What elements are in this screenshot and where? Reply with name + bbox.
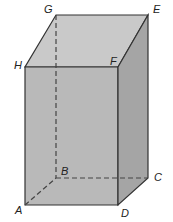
vertex-label-a: A <box>15 205 22 216</box>
front-face <box>25 67 118 205</box>
prism-diagram <box>0 0 173 222</box>
vertex-label-e: E <box>153 4 160 15</box>
vertex-label-g: G <box>44 4 53 15</box>
vertex-label-c: C <box>154 172 162 183</box>
vertex-label-b: B <box>61 166 68 177</box>
vertex-label-d: D <box>121 208 129 219</box>
vertex-label-f: F <box>110 56 117 67</box>
vertex-label-h: H <box>14 60 22 71</box>
